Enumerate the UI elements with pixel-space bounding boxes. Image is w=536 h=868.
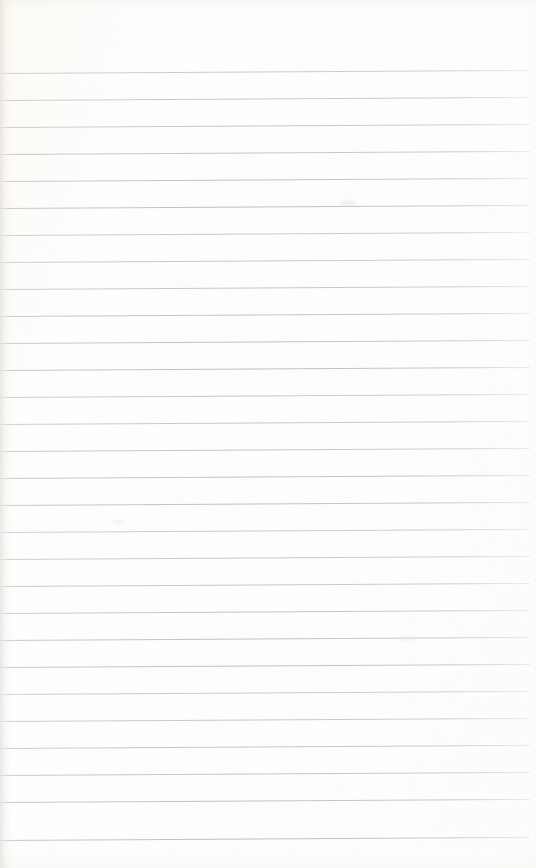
- ruled-line-ink: [0, 394, 530, 398]
- ruled-line-ink: [0, 448, 530, 452]
- ruled-line-ink: [0, 502, 530, 506]
- ruled-line: [0, 124, 530, 128]
- ruled-line: [0, 475, 530, 479]
- ruled-line-ink: [0, 664, 530, 668]
- ruled-line-ink: [0, 610, 530, 614]
- ruled-line-ink: [0, 286, 530, 290]
- ruled-line: [0, 259, 530, 263]
- ruled-line-ink: [0, 772, 530, 776]
- ruled-line: [0, 502, 530, 506]
- ruled-line-ink: [0, 205, 530, 209]
- ruled-line: [0, 340, 530, 344]
- ruled-line-ink: [0, 691, 530, 695]
- ruled-line-ink: [0, 637, 530, 641]
- ruled-line-ink: [0, 151, 530, 155]
- ruled-line-ink: [0, 529, 530, 533]
- ruled-line: [0, 583, 530, 587]
- ruled-line: [0, 637, 530, 641]
- ruled-line: [0, 556, 530, 560]
- ruled-line: [0, 718, 530, 722]
- ruled-line-ink: [0, 259, 530, 263]
- ruled-line-ink: [0, 367, 530, 371]
- ruled-line-ink: [0, 556, 530, 560]
- ruled-line: [0, 178, 530, 182]
- ruled-line: [0, 232, 530, 236]
- ruled-line-ink: [0, 124, 530, 128]
- ruled-line: [0, 448, 530, 452]
- ruled-line-ink: [0, 97, 530, 101]
- ruled-line: [0, 529, 530, 533]
- ruled-line: [0, 151, 530, 155]
- ruled-line: [0, 367, 530, 371]
- ruled-line-ink: [0, 583, 530, 587]
- ruled-line-ink: [0, 70, 530, 74]
- scanned-page: [0, 0, 536, 868]
- ruled-line: [0, 772, 530, 776]
- ruled-line-ink: [0, 475, 530, 479]
- ruled-line: [0, 286, 530, 290]
- ruled-line-ink: [0, 837, 530, 841]
- ruled-line: [0, 394, 530, 398]
- ruled-line: [0, 691, 530, 695]
- ruled-line-ink: [0, 718, 530, 722]
- ruled-line: [0, 205, 530, 209]
- ruled-line-ink: [0, 340, 530, 344]
- ruled-line: [0, 97, 530, 101]
- ruled-line: [0, 745, 530, 749]
- ruled-line: [0, 799, 530, 803]
- ruled-line: [0, 837, 530, 841]
- ruled-line-ink: [0, 232, 530, 236]
- ruled-lines-layer: [0, 0, 536, 868]
- ruled-line-ink: [0, 745, 530, 749]
- ruled-line: [0, 70, 530, 74]
- ruled-line: [0, 421, 530, 425]
- ruled-line-ink: [0, 799, 530, 803]
- ruled-line: [0, 313, 530, 317]
- ruled-line-ink: [0, 313, 530, 317]
- ruled-line: [0, 610, 530, 614]
- ruled-line-ink: [0, 178, 530, 182]
- ruled-line: [0, 664, 530, 668]
- ruled-line-ink: [0, 421, 530, 425]
